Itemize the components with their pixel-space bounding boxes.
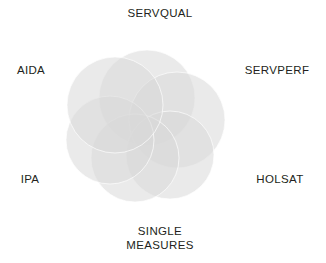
venn-label-servqual: SERVQUAL <box>127 7 192 21</box>
venn-diagram-figure: SERVQUAL SERVPERF HOLSAT SINGLE MEASURES… <box>0 0 326 263</box>
venn-label-single-measures: SINGLE MEASURES <box>126 225 193 252</box>
venn-label-holsat: HOLSAT <box>256 173 303 187</box>
venn-label-aida: AIDA <box>17 64 45 78</box>
venn-label-servperf: SERVPERF <box>245 64 310 78</box>
venn-label-ipa: IPA <box>21 173 40 187</box>
venn-circle-aida <box>67 57 163 153</box>
